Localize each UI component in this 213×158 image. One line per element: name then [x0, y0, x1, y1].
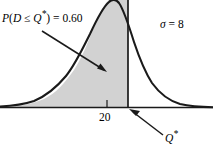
sigma-value: 8	[178, 18, 184, 30]
distribution-figure: P(D ≤ Q*) = 0.60 σ = 8 20 Q*	[0, 0, 213, 158]
probability-target: Q	[33, 12, 41, 24]
probability-value: 0.60	[62, 12, 82, 24]
probability-equals: =	[50, 12, 62, 24]
x-axis-tick-label: 20	[99, 112, 111, 124]
sigma-equals: =	[166, 18, 178, 30]
probability-variable: D	[13, 12, 21, 24]
probability-annotation: P(D ≤ Q*) = 0.60	[2, 13, 83, 25]
probability-operator: ≤	[21, 12, 33, 24]
quantile-star: *	[173, 129, 178, 139]
quantile-label: Q*	[165, 133, 178, 145]
sigma-annotation: σ = 8	[160, 19, 184, 31]
quantile-arrow	[129, 109, 163, 135]
probability-prefix: P	[2, 12, 9, 24]
